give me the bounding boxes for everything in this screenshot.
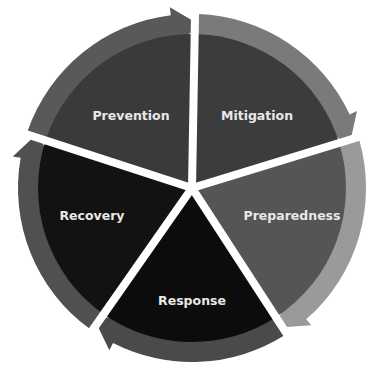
label-prevention: Prevention xyxy=(92,108,169,123)
divider-line xyxy=(192,6,195,188)
disaster-management-cycle: Prevention Mitigation Preparedness Respo… xyxy=(0,0,378,367)
label-recovery: Recovery xyxy=(59,208,124,223)
label-mitigation: Mitigation xyxy=(221,108,293,123)
label-response: Response xyxy=(158,293,226,308)
label-preparedness: Preparedness xyxy=(243,208,340,223)
